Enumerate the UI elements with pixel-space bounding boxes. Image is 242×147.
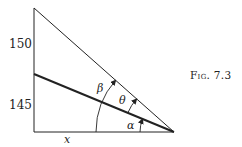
sight-line	[34, 74, 174, 132]
label-theta: θ	[119, 95, 126, 107]
alpha-arc	[140, 119, 143, 132]
label-alpha: α	[127, 120, 134, 132]
label-150: 150	[9, 38, 32, 50]
hypotenuse	[34, 8, 174, 132]
label-beta: β	[97, 83, 103, 95]
theta-arc	[128, 99, 137, 113]
label-x: x	[64, 134, 70, 146]
figure-caption: Fig. 7.3	[190, 69, 231, 81]
label-145: 145	[9, 99, 32, 111]
